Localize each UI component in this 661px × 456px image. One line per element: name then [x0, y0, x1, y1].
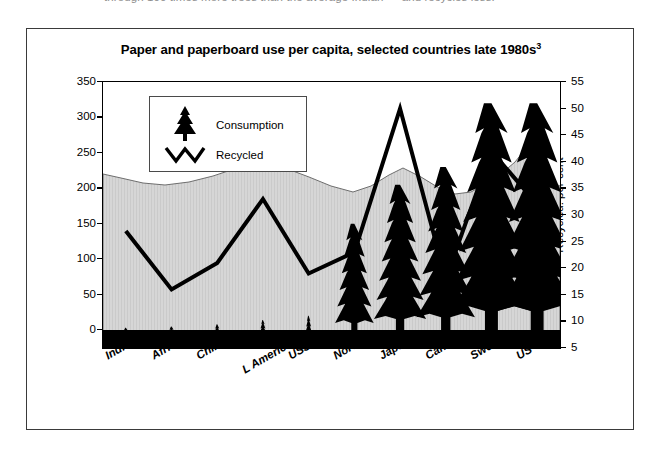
- y-tick-label-left: 300: [62, 111, 96, 121]
- chart-title: Paper and paperboard use per capita, sel…: [27, 41, 635, 57]
- y-tick-label-right: 45: [571, 129, 605, 139]
- y-tick-mark-right: [561, 241, 566, 242]
- y-tick-label-right: 50: [571, 103, 605, 113]
- caption-text: through 100 times more trees than the av…: [104, 0, 495, 3]
- plot-frame: Consumption Recycled: [102, 81, 561, 349]
- y-tick-label-right: 20: [571, 262, 605, 272]
- y-tick-mark-right: [561, 214, 566, 215]
- chart-title-footnote-marker: 3: [536, 41, 541, 51]
- y-tick-mark-right: [561, 294, 566, 295]
- y-tick-label-right: 30: [571, 209, 605, 219]
- y-tick-label-left: 150: [62, 218, 96, 228]
- y-tick-label-left: 0: [62, 324, 96, 334]
- y-tick-label-right: 40: [571, 156, 605, 166]
- y-tick-label-left: 250: [62, 147, 96, 157]
- y-tick-label-left: 350: [62, 76, 96, 86]
- chart-legend: Consumption Recycled: [149, 96, 307, 172]
- y-tick-mark-right: [561, 187, 566, 188]
- y-tick-label-right: 35: [571, 182, 605, 192]
- zigzag-line-icon: [164, 145, 206, 165]
- y-tick-label-left: 100: [62, 253, 96, 263]
- legend-label-consumption: Consumption: [216, 119, 284, 131]
- legend-label-recycled: Recycled: [216, 149, 263, 161]
- cut-off-caption-strip: through 100 times more trees than the av…: [0, 0, 661, 14]
- y-tick-mark-right: [561, 108, 566, 109]
- y-tick-mark-right: [561, 347, 566, 348]
- y-tick-label-right: 55: [571, 76, 605, 86]
- y-tick-mark-right: [561, 161, 566, 162]
- y-tick-label-left: 200: [62, 182, 96, 192]
- y-tick-label-right: 15: [571, 289, 605, 299]
- y-tick-label-left: 50: [62, 289, 96, 299]
- legend-entry-consumption: Consumption: [164, 105, 284, 145]
- y-tick-label-right: 5: [571, 342, 605, 352]
- y-tick-mark-right: [561, 320, 566, 321]
- figure-frame: Paper and paperboard use per capita, sel…: [26, 28, 634, 430]
- y-tick-mark-right: [561, 134, 566, 135]
- plot-area-wrapper: Consumption: kilograms per year Recycled…: [102, 81, 561, 349]
- y-tick-label-right: 25: [571, 236, 605, 246]
- chart-title-text: Paper and paperboard use per capita, sel…: [121, 42, 537, 57]
- y-tick-mark-right: [561, 267, 566, 268]
- fir-tree-icon: [164, 105, 206, 145]
- legend-entry-recycled: Recycled: [164, 145, 263, 165]
- y-tick-mark-right: [561, 81, 566, 82]
- y-tick-label-right: 10: [571, 315, 605, 325]
